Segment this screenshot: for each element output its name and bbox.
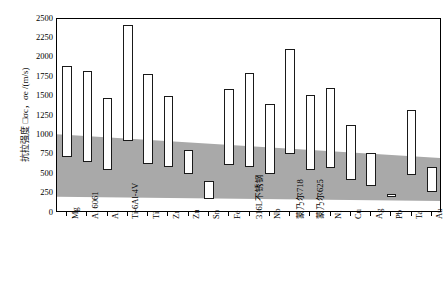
x-tick-label: Ti	[151, 212, 161, 219]
y-tick-label: 0	[11, 208, 53, 216]
y-tick-label: 1750	[11, 72, 53, 80]
x-tick-label: Al 6061	[90, 191, 100, 219]
y-tick-label: 250	[11, 188, 53, 196]
bar	[143, 74, 153, 164]
bar	[387, 194, 397, 198]
y-tick-label: 2250	[11, 33, 53, 41]
x-tick-label: Zr	[171, 211, 181, 219]
bar	[245, 73, 255, 168]
x-tick-mark	[86, 212, 87, 216]
x-tick-mark	[289, 212, 290, 216]
x-tick-label: Ta	[414, 211, 424, 219]
x-tick-label: Al	[110, 211, 120, 220]
x-tick-label: Nb	[272, 209, 282, 219]
bar	[306, 95, 316, 169]
x-tick-mark	[370, 212, 371, 216]
bar	[123, 25, 133, 141]
x-tick-label: Ag	[374, 209, 384, 219]
x-tick-label: Au	[434, 209, 444, 219]
y-tick-label: 750	[11, 149, 53, 157]
x-tick-mark	[330, 212, 331, 216]
chart-root: 抗拉强度 □σc，σe /(m/s) 250022502000175015001…	[0, 0, 446, 290]
bar	[164, 96, 174, 167]
bar	[407, 110, 417, 175]
x-tick-mark	[167, 212, 168, 216]
y-tick-label: 1000	[11, 130, 53, 138]
y-tick-label: 1500	[11, 91, 53, 99]
bar	[346, 125, 356, 181]
x-tick-mark	[228, 212, 229, 216]
x-tick-label: 316L不锈钢	[252, 174, 264, 219]
x-tick-label: Pb	[394, 210, 404, 219]
x-tick-label: 蒙乃尔718	[293, 179, 305, 219]
plot-area	[56, 18, 441, 212]
x-tick-label: Zn	[191, 210, 201, 219]
x-tick-mark	[309, 212, 310, 216]
bar	[204, 181, 214, 199]
bar	[62, 66, 72, 158]
bar	[184, 150, 194, 174]
x-tick-mark	[66, 212, 67, 216]
bar	[265, 104, 275, 174]
x-tick-label: Sn	[211, 210, 221, 219]
x-tick-mark	[390, 212, 391, 216]
y-tick-label: 2000	[11, 52, 53, 60]
bar	[83, 71, 93, 162]
x-tick-mark	[208, 212, 209, 216]
x-tick-label: Ni	[333, 211, 343, 220]
y-tick-label: 500	[11, 169, 53, 177]
x-tick-mark	[249, 212, 250, 216]
bar	[326, 88, 336, 168]
x-tick-mark	[127, 212, 128, 216]
bar	[427, 167, 437, 192]
y-tick-label: 2500	[11, 14, 53, 22]
bar	[224, 89, 234, 165]
x-tick-mark	[269, 212, 270, 216]
x-tick-label: Cu	[353, 209, 363, 219]
x-tick-label: Mg	[70, 207, 80, 219]
x-tick-label: Fe	[232, 211, 242, 220]
x-tick-mark	[147, 212, 148, 216]
x-tick-label: Ti-6Al-4V	[130, 183, 140, 219]
x-tick-mark	[188, 212, 189, 216]
x-tick-mark	[350, 212, 351, 216]
x-tick-mark	[107, 212, 108, 216]
bar	[285, 49, 295, 154]
x-tick-label: 蒙乃尔625	[313, 179, 325, 219]
x-tick-mark	[431, 212, 432, 216]
y-tick-label: 1250	[11, 111, 53, 119]
x-tick-mark	[411, 212, 412, 216]
bar	[103, 98, 113, 169]
bar	[366, 153, 376, 186]
